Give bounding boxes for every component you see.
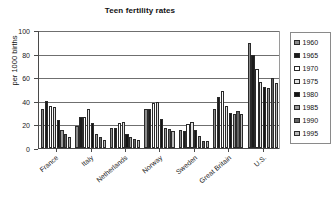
x-tick-label: France [39, 154, 60, 173]
legend-item[interactable]: 1980 [294, 88, 328, 101]
legend-label: 1975 [303, 78, 319, 85]
bar[interactable] [41, 109, 44, 148]
bar[interactable] [160, 119, 163, 149]
bar[interactable] [248, 43, 251, 148]
bar[interactable] [137, 140, 140, 148]
bar-group [108, 31, 142, 148]
x-tick-label: Sweden [174, 154, 198, 176]
y-tick-label: 80 [22, 51, 30, 58]
bar[interactable] [152, 103, 155, 148]
bar[interactable] [186, 124, 189, 148]
bar[interactable] [122, 122, 125, 148]
bar[interactable] [229, 113, 232, 148]
bar[interactable] [213, 109, 216, 148]
legend-label: 1995 [303, 130, 319, 137]
plot-area [38, 31, 280, 149]
bar[interactable] [91, 123, 94, 148]
y-tick-mark [34, 149, 38, 150]
bar[interactable] [125, 134, 128, 148]
bar[interactable] [251, 55, 254, 148]
bar[interactable] [267, 88, 270, 148]
bar-group [177, 31, 211, 148]
bar[interactable] [87, 109, 90, 148]
x-label-cell: Great Britain [211, 152, 246, 207]
bar[interactable] [202, 141, 205, 148]
legend-label: 1960 [303, 39, 319, 46]
bar[interactable] [95, 134, 98, 148]
bar[interactable] [171, 131, 174, 148]
bar[interactable] [83, 117, 86, 148]
bar[interactable] [236, 111, 239, 148]
y-tick-label: 40 [22, 98, 30, 105]
legend-swatch-icon [294, 66, 300, 72]
bar[interactable] [75, 126, 78, 148]
bar[interactable] [240, 114, 243, 148]
legend-label: 1985 [303, 104, 319, 111]
bar[interactable] [255, 69, 258, 148]
legend: 19601965197019751980198519901995 [290, 32, 331, 144]
bar[interactable] [271, 78, 274, 148]
legend-item[interactable]: 1995 [294, 127, 328, 140]
legend-label: 1980 [303, 91, 319, 98]
legend-item[interactable]: 1970 [294, 62, 328, 75]
bar[interactable] [68, 137, 71, 148]
bar[interactable] [49, 106, 52, 148]
chart-container: Teen fertility rates per 1000 births 020… [0, 0, 336, 213]
bar[interactable] [60, 130, 63, 148]
legend-swatch-icon [294, 92, 300, 98]
bar-group [142, 31, 176, 148]
legend-swatch-icon [294, 118, 300, 124]
bar[interactable] [168, 129, 171, 148]
bar[interactable] [64, 134, 67, 148]
legend-label: 1965 [303, 52, 319, 59]
legend-swatch-icon [294, 105, 300, 111]
bar[interactable] [164, 128, 167, 148]
legend-item[interactable]: 1965 [294, 49, 328, 62]
bar[interactable] [198, 136, 201, 148]
legend-label: 1990 [303, 117, 319, 124]
legend-swatch-icon [294, 79, 300, 85]
bar-group [246, 31, 280, 148]
bar[interactable] [225, 106, 228, 148]
bar[interactable] [183, 131, 186, 148]
bar[interactable] [103, 140, 106, 148]
legend-item[interactable]: 1975 [294, 75, 328, 88]
bar[interactable] [114, 128, 117, 148]
bar[interactable] [156, 102, 159, 148]
bar[interactable] [129, 137, 132, 148]
bar[interactable] [206, 141, 209, 148]
bar[interactable] [275, 83, 278, 148]
bar[interactable] [194, 130, 197, 148]
bar[interactable] [110, 128, 113, 148]
bar[interactable] [79, 117, 82, 148]
y-tick-label: 0 [26, 146, 30, 153]
bar[interactable] [57, 120, 60, 148]
bar[interactable] [217, 97, 220, 148]
bar[interactable] [99, 137, 102, 148]
bar-groups [39, 31, 280, 148]
bar[interactable] [53, 107, 56, 148]
bar[interactable] [259, 82, 262, 148]
bar[interactable] [133, 139, 136, 148]
bar[interactable] [221, 91, 224, 148]
bar-group [73, 31, 107, 148]
y-tick-label: 100 [18, 28, 30, 35]
bar[interactable] [190, 122, 193, 148]
bar[interactable] [45, 101, 48, 148]
bar[interactable] [148, 109, 151, 148]
legend-item[interactable]: 1990 [294, 114, 328, 127]
x-tick-label: Norway [141, 154, 164, 175]
y-tick-label: 60 [22, 75, 30, 82]
bar[interactable] [144, 109, 147, 148]
chart-title: Teen fertility rates [0, 6, 280, 15]
legend-item[interactable]: 1985 [294, 101, 328, 114]
bar[interactable] [233, 114, 236, 148]
plot-right-border [279, 31, 280, 149]
x-label-cell: U.S. [245, 152, 280, 207]
bar[interactable] [179, 130, 182, 148]
legend-item[interactable]: 1960 [294, 36, 328, 49]
legend-swatch-icon [294, 131, 300, 137]
x-axis-labels: FranceItalyNetherlandsNorwaySwedenGreat … [38, 152, 280, 207]
bar[interactable] [118, 123, 121, 148]
bar[interactable] [263, 87, 266, 148]
